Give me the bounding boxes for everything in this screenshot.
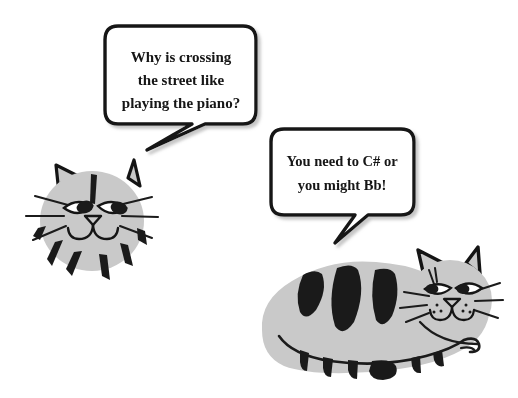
bubble-punchline-line-1: You need to C# or [286, 153, 398, 169]
cartoon-scene: Why is crossing the street like playing … [0, 0, 518, 398]
bubble-question-line-1: Why is crossing [131, 49, 232, 65]
bubble-question-line-2: the street like [138, 72, 225, 88]
bubble-question-line-3: playing the piano? [122, 95, 240, 111]
bubble-punchline-line-2: you might Bb! [298, 177, 387, 193]
cartoon-illustration: Why is crossing the street like playing … [0, 0, 518, 398]
